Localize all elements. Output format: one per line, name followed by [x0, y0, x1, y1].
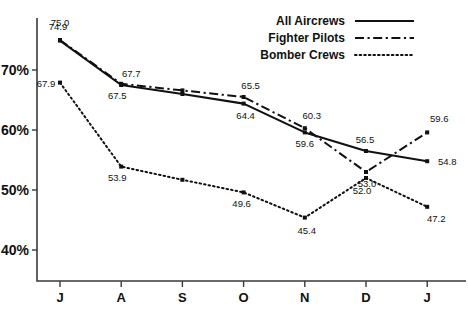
data-point-bomber-crews-2 — [180, 178, 184, 182]
data-point-all-aircrews-2 — [180, 92, 184, 96]
data-label-bomber-crews-4: 45.4 — [298, 225, 317, 236]
legend-label-bomber-crews: Bomber Crews — [260, 48, 345, 62]
x-tick-label-2: S — [178, 290, 187, 305]
data-label-all-aircrews-1: 67.5 — [108, 90, 127, 101]
data-point-all-aircrews-6 — [425, 159, 429, 163]
data-label-fighter-pilots-4: 60.3 — [303, 110, 322, 121]
y-tick-label-40: 40% — [1, 242, 30, 258]
data-point-bomber-crews-1 — [119, 165, 123, 169]
data-point-all-aircrews-3 — [242, 102, 246, 106]
data-label-bomber-crews-6: 47.2 — [427, 213, 446, 224]
data-label-bomber-crews-5: 52.0 — [353, 185, 372, 196]
data-point-bomber-crews-3 — [242, 190, 246, 194]
y-tick-label-50: 50% — [1, 182, 30, 198]
data-label-all-aircrews-6: 54.8 — [438, 156, 457, 167]
data-label-bomber-crews-0: 67.9 — [37, 78, 56, 89]
line-chart: 70%60%50%40%JASONDJ74.967.564.459.656.55… — [0, 0, 468, 310]
data-label-fighter-pilots-3: 65.5 — [241, 80, 260, 91]
x-tick-label-5: D — [361, 290, 370, 305]
data-point-fighter-pilots-0 — [58, 38, 62, 42]
data-point-bomber-crews-0 — [58, 81, 62, 85]
legend-label-fighter-pilots: Fighter Pilots — [268, 31, 345, 45]
data-point-fighter-pilots-4 — [303, 126, 307, 130]
data-point-bomber-crews-4 — [303, 216, 307, 220]
data-label-all-aircrews-4: 59.6 — [296, 138, 315, 149]
plot-area: 70%60%50%40%JASONDJ74.967.564.459.656.55… — [0, 0, 468, 310]
y-tick-label-70: 70% — [1, 62, 30, 78]
data-point-fighter-pilots-5 — [364, 170, 368, 174]
y-tick-label-60: 60% — [1, 122, 30, 138]
legend-label-all-aircrews: All Aircrews — [276, 14, 345, 28]
x-tick-label-1: A — [117, 290, 127, 305]
data-label-bomber-crews-1: 53.9 — [108, 172, 127, 183]
x-tick-label-6: J — [424, 290, 431, 305]
x-tick-label-0: J — [56, 290, 63, 305]
data-label-fighter-pilots-0: 75.0 — [51, 17, 70, 28]
data-point-fighter-pilots-2 — [180, 88, 184, 92]
data-point-fighter-pilots-1 — [119, 82, 123, 86]
data-label-fighter-pilots-6: 59.6 — [430, 113, 449, 124]
data-point-fighter-pilots-3 — [242, 95, 246, 99]
data-point-bomber-crews-6 — [425, 205, 429, 209]
x-tick-label-3: O — [239, 290, 249, 305]
data-point-all-aircrews-4 — [303, 130, 307, 134]
data-label-bomber-crews-3: 49.6 — [232, 198, 251, 209]
data-label-fighter-pilots-1: 67.7 — [122, 68, 141, 79]
x-tick-label-4: N — [300, 290, 309, 305]
data-label-all-aircrews-5: 56.5 — [356, 134, 375, 145]
data-point-fighter-pilots-6 — [425, 130, 429, 134]
data-point-all-aircrews-5 — [364, 149, 368, 153]
data-label-all-aircrews-3: 64.4 — [236, 110, 255, 121]
